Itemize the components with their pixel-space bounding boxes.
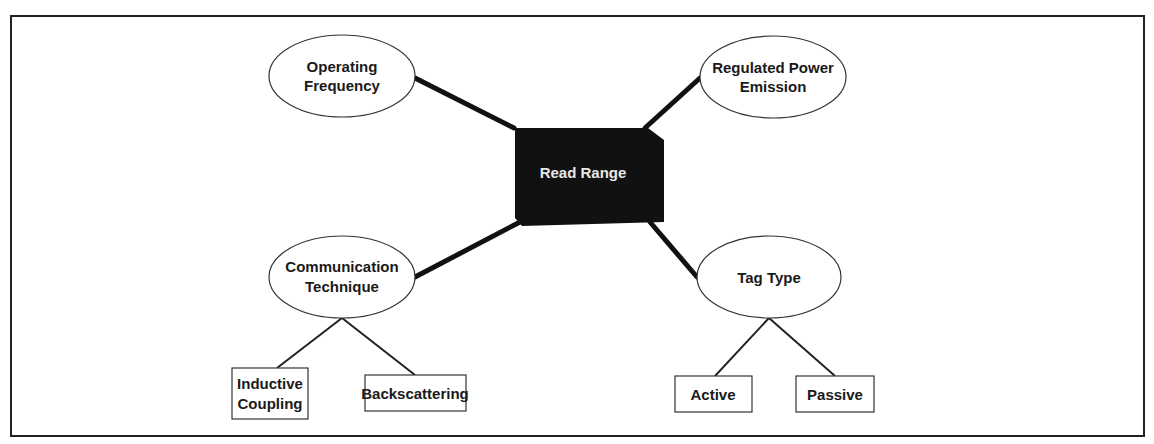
svg-text:Regulated Power: Regulated Power	[712, 59, 834, 76]
svg-text:Coupling: Coupling	[238, 395, 303, 412]
svg-text:Backscattering: Backscattering	[361, 385, 469, 402]
node-tag-type: Tag Type	[697, 236, 841, 318]
leaf-active: Active	[675, 376, 752, 412]
svg-text:Communication: Communication	[285, 258, 398, 275]
node-communication-technique: Communication Technique	[269, 236, 415, 318]
read-range-diagram: Read Range Operating Frequency Regulated…	[0, 0, 1154, 444]
leaf-backscattering: Backscattering	[361, 375, 469, 411]
svg-text:Frequency: Frequency	[304, 77, 381, 94]
svg-text:Passive: Passive	[807, 386, 863, 403]
svg-text:Tag Type: Tag Type	[737, 269, 801, 286]
center-label: Read Range	[540, 164, 627, 181]
node-operating-frequency: Operating Frequency	[269, 35, 415, 117]
svg-text:Inductive: Inductive	[237, 375, 303, 392]
node-regulated-power-emission: Regulated Power Emission	[700, 36, 846, 118]
leaf-inductive-coupling: Inductive Coupling	[232, 368, 308, 419]
diagram-frame	[11, 16, 1144, 436]
leaf-passive: Passive	[796, 376, 874, 412]
leaf-connectors	[277, 318, 835, 376]
center-node: Read Range	[515, 128, 664, 226]
svg-text:Active: Active	[690, 386, 735, 403]
svg-text:Emission: Emission	[740, 78, 807, 95]
svg-text:Technique: Technique	[305, 278, 379, 295]
svg-text:Operating: Operating	[307, 58, 378, 75]
